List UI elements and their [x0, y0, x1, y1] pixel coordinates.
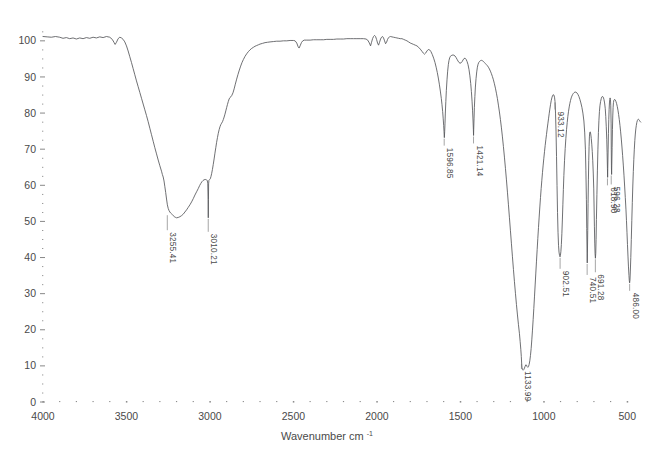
y-tick-label: 40 — [24, 251, 36, 263]
peak-label: 1421.14 — [475, 145, 484, 176]
x-tick-label: 1500 — [449, 410, 473, 422]
peak-annotation: 902.51 — [560, 258, 570, 297]
x-axis-tick-labels: 4000350030002500200015001000500 — [31, 410, 636, 422]
y-tick-label: 20 — [24, 323, 36, 335]
peak-annotation: 596.28 — [611, 175, 621, 212]
y-tick-label: 0 — [30, 396, 36, 408]
peak-label: 1596.85 — [445, 148, 454, 179]
peak-label: 486.00 — [631, 293, 640, 319]
peak-annotation: 486.00 — [630, 284, 640, 319]
peak-label: 3010.21 — [209, 234, 218, 265]
peak-annotation: 1421.14 — [474, 136, 484, 176]
x-tick-label: 4000 — [31, 410, 55, 422]
x-tick-label: 3500 — [115, 410, 139, 422]
peak-annotation: 691.28 — [595, 259, 605, 300]
y-tick-label: 100 — [18, 34, 36, 46]
peak-annotation: 933.12 — [555, 103, 565, 138]
spectrum-trace-group — [43, 35, 641, 370]
x-tick-label: 2500 — [282, 410, 306, 422]
peak-annotation: 740.51 — [587, 264, 597, 303]
peak-label: 3255.41 — [168, 232, 177, 263]
x-axis-title-superscript: -1 — [367, 430, 373, 437]
x-tick-label: 1000 — [532, 410, 556, 422]
y-axis-tick-labels: 0102030405060708090100 — [18, 34, 36, 407]
y-tick-label: 90 — [24, 71, 36, 83]
x-tick-label: 500 — [619, 410, 637, 422]
x-tick-label: 2000 — [365, 410, 389, 422]
y-tick-label: 60 — [24, 179, 36, 191]
x-axis-title: Wavenumber cm -1 — [281, 430, 373, 442]
peak-label: 596.28 — [612, 186, 621, 212]
peak-annotation: 3255.41 — [167, 215, 177, 263]
ir-spectrum-figure: 0102030405060708090100 40003500300025002… — [0, 0, 655, 458]
x-tick-label: 3000 — [198, 410, 222, 422]
peak-annotation-group: 3255.413010.211596.851421.141133.99933.1… — [167, 103, 639, 402]
transmittance-trace — [43, 35, 641, 370]
peak-label: 740.51 — [588, 277, 597, 303]
y-tick-label: 10 — [24, 359, 36, 371]
peak-annotation: 3010.21 — [208, 219, 218, 265]
peak-annotation: 1596.85 — [444, 139, 454, 179]
peak-label: 691.28 — [596, 274, 605, 300]
spectrum-plot-canvas: 0102030405060708090100 40003500300025002… — [0, 0, 655, 458]
y-tick-label: 50 — [24, 215, 36, 227]
x-axis-tick-marks — [42, 401, 628, 403]
y-tick-label: 80 — [24, 107, 36, 119]
peak-label: 902.51 — [561, 271, 570, 297]
y-axis-tick-marks — [40, 31, 45, 402]
peak-label: 1133.99 — [523, 371, 532, 402]
peak-label: 933.12 — [556, 112, 565, 138]
y-tick-label: 30 — [24, 287, 36, 299]
y-tick-label: 70 — [24, 143, 36, 155]
